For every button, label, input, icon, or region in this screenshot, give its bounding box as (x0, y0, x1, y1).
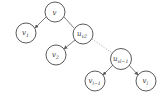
tree-diagram: v v1 uv2 v2 uvl−1 vl−1 vl (0, 0, 164, 97)
node-subscript: v2 (82, 34, 88, 39)
edge-uvl1-vl (129, 65, 138, 75)
node-v1: v1 (16, 23, 36, 43)
node-subscript: l−1 (92, 81, 100, 86)
edge-v-uv2 (64, 17, 74, 28)
edge-v-v1 (35, 17, 46, 28)
node-vl1: vl−1 (85, 71, 105, 91)
node-uv2: uv2 (73, 24, 93, 44)
node-v2: v2 (46, 45, 66, 65)
edge-uv2-uvl1-dotted (92, 39, 112, 53)
node-subscript: vl−1 (118, 59, 129, 64)
node-vl: vl (136, 71, 156, 91)
node-label: v (53, 9, 57, 17)
node-subscript: 2 (55, 55, 59, 60)
node-uvl1: uvl−1 (111, 49, 132, 70)
edge-uv2-v2 (64, 40, 75, 49)
svg-text:v: v (53, 9, 57, 17)
node-v: v (45, 2, 65, 22)
node-subscript: 1 (26, 33, 29, 38)
edge-uvl1-vl1 (103, 65, 113, 75)
